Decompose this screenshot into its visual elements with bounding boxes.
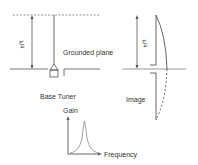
feed-triangle	[50, 64, 58, 70]
base-tuner-label: Base Tuner	[40, 93, 76, 100]
arrow-down-head	[31, 65, 34, 69]
monopole-real	[150, 15, 156, 65]
arrow-down-head-right	[136, 65, 139, 69]
grounded-plane-label: Grounded plane	[63, 49, 113, 56]
gain-curve	[70, 121, 99, 153]
antenna-diagram	[0, 0, 198, 165]
graph-x-label: Frequency	[104, 151, 137, 158]
wavelength-label-left: λ/4	[18, 40, 25, 49]
wavelength-label-right: λ/4	[141, 39, 148, 48]
base-tuner-box	[50, 70, 58, 77]
graph-y-arrowhead	[67, 116, 70, 120]
arrow-up-head-right	[136, 15, 139, 19]
graph-y-label: Gain	[63, 107, 78, 114]
current-distribution-image	[156, 69, 167, 120]
current-distribution-real	[156, 15, 167, 69]
arrow-up-head	[31, 15, 34, 19]
monopole-image	[150, 73, 156, 120]
image-label: Image	[126, 96, 145, 103]
